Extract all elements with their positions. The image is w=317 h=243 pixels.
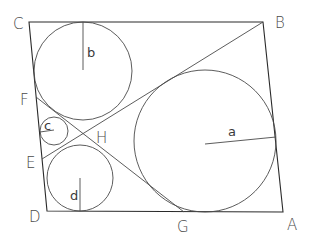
- label-b-vertex: B: [275, 14, 285, 32]
- label-d-vertex: D: [29, 208, 41, 226]
- label-f-point: F: [20, 91, 29, 109]
- radius-a: [205, 137, 276, 144]
- label-a-vertex: A: [287, 216, 297, 234]
- label-e-point: E: [26, 154, 35, 172]
- label-radius-b: b: [87, 45, 95, 60]
- circle-a: [134, 70, 276, 212]
- label-h-point: H: [96, 129, 107, 147]
- label-radius-a: a: [228, 124, 236, 139]
- line-fg: [36, 97, 184, 212]
- geometry-diagram: C B F E H D G A a b c d: [0, 0, 317, 243]
- label-radius-c: c: [44, 118, 51, 133]
- label-g-point: G: [177, 218, 189, 236]
- label-radius-d: d: [70, 188, 78, 203]
- label-c-vertex: C: [13, 15, 23, 33]
